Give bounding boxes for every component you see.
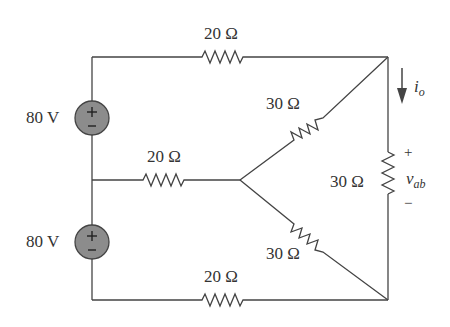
vab-minus-sign: − (404, 196, 412, 211)
circuit-diagram: 80 V 80 V 20 Ω 20 Ω 20 Ω 30 Ω 30 Ω 30 Ω … (0, 0, 450, 327)
bottom-resistor-label: 20 Ω (204, 268, 238, 285)
middle-resistor-label: 20 Ω (147, 148, 181, 165)
voltage-source-2-icon (75, 225, 109, 259)
top-resistor-label: 20 Ω (204, 25, 238, 42)
current-arrow-icon (397, 68, 407, 104)
vab-plus-sign: + (404, 145, 412, 160)
source-1-label: 80 V (26, 109, 59, 126)
current-label: io (414, 78, 425, 98)
right-resistor-label: 30 Ω (330, 173, 364, 190)
source-2-label: 80 V (26, 233, 59, 250)
lower-diagonal-resistor-label: 30 Ω (266, 245, 300, 262)
voltage-source-1-icon (75, 101, 109, 135)
vab-label: vab (406, 170, 426, 190)
upper-diagonal-resistor-label: 30 Ω (266, 95, 300, 112)
